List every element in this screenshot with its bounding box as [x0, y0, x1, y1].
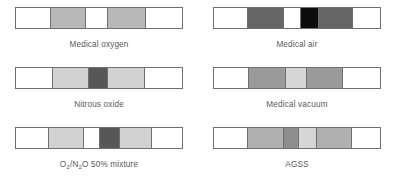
medical-gas-colour-code-figure: Medical oxygen Medical air Nitrous oxide…	[0, 0, 396, 187]
bar-cell-o2-n2o-mixture: O2/N2O 50% mixture	[0, 127, 198, 187]
colour-band-bar-medical-vacuum	[213, 67, 381, 89]
colour-band-segment-band-6	[352, 128, 380, 148]
colour-band-bar-nitrous-oxide	[15, 67, 183, 89]
bar-caption-o2-n2o-mixture: O2/N2O 50% mixture	[60, 160, 138, 170]
colour-band-segment-band-4	[299, 128, 317, 148]
colour-band-segment-band-3	[284, 8, 301, 28]
bar-caption-nitrous-oxide: Nitrous oxide	[74, 100, 124, 110]
colour-band-segment-band-4	[108, 8, 146, 28]
colour-band-segment-band-5	[317, 128, 352, 148]
colour-band-segment-band-2	[248, 8, 284, 28]
colour-band-segment-band-4	[301, 8, 319, 28]
colour-band-segment-band-6	[152, 128, 182, 148]
bar-cell-agss: AGSS	[198, 127, 396, 187]
colour-band-segment-band-5	[145, 68, 182, 88]
colour-band-segment-band-5	[343, 68, 380, 88]
bar-caption-medical-air: Medical air	[276, 40, 317, 50]
bar-cell-medical-oxygen: Medical oxygen	[0, 7, 198, 67]
colour-band-segment-band-3	[89, 68, 108, 88]
colour-band-segment-band-3	[286, 68, 307, 88]
bar-grid: Medical oxygen Medical air Nitrous oxide…	[0, 0, 396, 180]
colour-band-segment-band-4	[100, 128, 120, 148]
colour-band-segment-band-5	[319, 8, 353, 28]
colour-band-segment-band-3	[86, 8, 108, 28]
colour-band-segment-band-3	[284, 128, 299, 148]
colour-band-bar-medical-air	[213, 7, 381, 29]
colour-band-segment-band-3	[84, 128, 100, 148]
colour-band-segment-band-2	[53, 68, 90, 88]
colour-band-segment-band-5	[120, 128, 152, 148]
colour-band-bar-o2-n2o-mixture	[15, 127, 183, 149]
bar-cell-nitrous-oxide: Nitrous oxide	[0, 67, 198, 127]
colour-band-segment-band-1	[16, 68, 53, 88]
bar-cell-medical-air: Medical air	[198, 7, 396, 67]
bar-caption-medical-oxygen: Medical oxygen	[70, 40, 129, 50]
colour-band-segment-band-1	[16, 8, 51, 28]
colour-band-segment-band-2	[248, 128, 284, 148]
colour-band-segment-band-1	[16, 128, 49, 148]
colour-band-bar-agss	[213, 127, 381, 149]
colour-band-segment-band-5	[146, 8, 182, 28]
colour-band-segment-band-6	[353, 8, 380, 28]
colour-band-segment-band-4	[108, 68, 145, 88]
colour-band-segment-band-1	[214, 128, 248, 148]
colour-band-segment-band-2	[249, 68, 286, 88]
colour-band-segment-band-2	[51, 8, 86, 28]
colour-band-segment-band-1	[214, 8, 248, 28]
colour-band-segment-band-2	[49, 128, 84, 148]
bar-cell-medical-vacuum: Medical vacuum	[198, 67, 396, 127]
colour-band-segment-band-4	[307, 68, 344, 88]
colour-band-bar-medical-oxygen	[15, 7, 183, 29]
bar-caption-agss: AGSS	[285, 160, 308, 170]
colour-band-segment-band-1	[214, 68, 249, 88]
bar-caption-medical-vacuum: Medical vacuum	[266, 100, 327, 110]
